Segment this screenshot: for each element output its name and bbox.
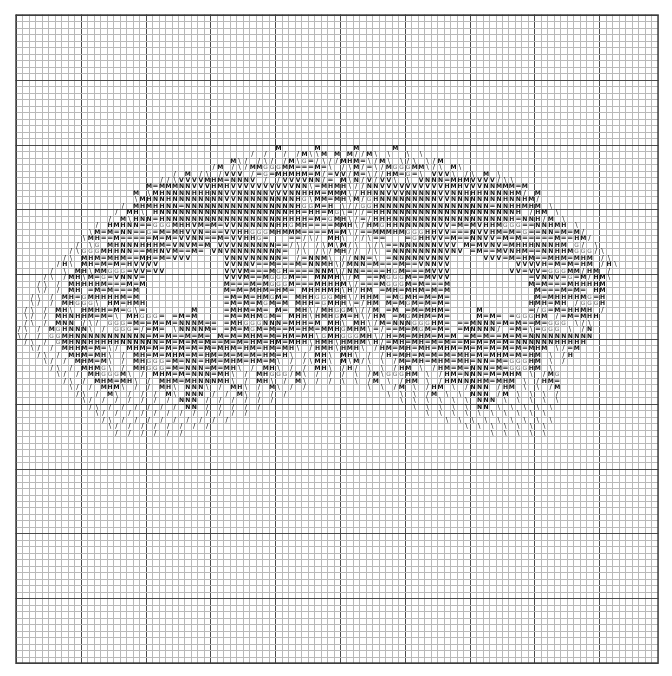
cross-stitch-chart: MMMM/\/\/\/\MMMMM/\/\MM\//\/\\//\/\MM\G=… bbox=[0, 0, 672, 676]
pattern-grid[interactable]: MMMM/\/\/\/\MMMMM/\/\MM\//\/\\//\/\MM\G=… bbox=[15, 14, 659, 664]
grid-lines-canvas bbox=[15, 14, 659, 664]
